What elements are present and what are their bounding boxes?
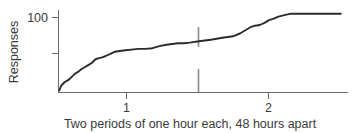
- x-axis-caption: Two periods of one hour each, 48 hours a…: [64, 117, 317, 131]
- x-tick-label-1: 1: [123, 101, 130, 115]
- chart-figure: 100 1 2 Responses Two periods of one hou…: [0, 0, 362, 133]
- cumulative-record-plot: 100 1 2 Responses Two periods of one hou…: [0, 0, 362, 133]
- y-axis-title: Responses: [7, 21, 21, 84]
- cumulative-response-curve: [59, 14, 342, 91]
- y-tick-label-100: 100: [27, 11, 48, 25]
- x-tick-label-2: 2: [265, 101, 272, 115]
